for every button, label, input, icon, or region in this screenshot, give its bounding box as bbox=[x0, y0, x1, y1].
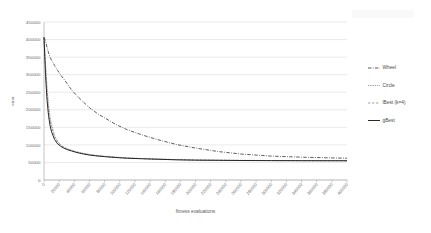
x-axis-tick-label: 300000 bbox=[260, 181, 273, 195]
x-axis-tick-label: 180000 bbox=[169, 181, 182, 195]
y-axis-tick-label: 350000 bbox=[26, 55, 41, 60]
x-axis-tick-label: 320000 bbox=[276, 181, 289, 195]
legend-label-0: Wheel bbox=[383, 65, 397, 70]
x-axis-tick-label: 360000 bbox=[306, 181, 319, 195]
line-chart: 0500001000001500002000002500003000003500… bbox=[0, 0, 431, 233]
x-axis-tick-label: 0 bbox=[41, 181, 47, 187]
x-axis-tick-label: 260000 bbox=[230, 181, 243, 195]
legend-label-1: Circle bbox=[383, 83, 396, 88]
legend-label-2: lBest (k=4) bbox=[383, 100, 406, 105]
y-axis-tick-label: 450000 bbox=[26, 20, 41, 25]
x-axis-tick-label: 40000 bbox=[65, 181, 77, 194]
y-axis-tick-label: 400000 bbox=[26, 37, 41, 42]
y-axis-tick-label: 250000 bbox=[26, 90, 41, 95]
x-axis-tick-label: 100000 bbox=[109, 181, 122, 195]
y-axis-title: error bbox=[10, 96, 15, 106]
y-axis-tick-label: 300000 bbox=[26, 72, 41, 77]
x-axis-tick-label: 240000 bbox=[215, 181, 228, 195]
y-axis-tick-label: 0 bbox=[38, 178, 41, 183]
x-axis-tick-label: 120000 bbox=[124, 181, 137, 195]
series-line-lbest-k-4 bbox=[44, 37, 347, 160]
y-axis-tick-label: 100000 bbox=[26, 143, 41, 148]
x-axis-tick-label: 20000 bbox=[50, 181, 62, 194]
x-axis-tick-label: 280000 bbox=[245, 181, 258, 195]
x-axis-tick-label: 220000 bbox=[200, 181, 213, 195]
x-axis-tick-label: 400000 bbox=[336, 181, 349, 195]
x-axis-tick-label: 340000 bbox=[291, 181, 304, 195]
series-line-circle bbox=[44, 37, 347, 160]
y-axis-tick-label: 200000 bbox=[26, 107, 41, 112]
y-axis-tick-label: 50000 bbox=[28, 160, 41, 165]
series-line-gbest bbox=[44, 37, 347, 160]
x-axis-tick-label: 380000 bbox=[321, 181, 334, 195]
x-axis-tick-label: 200000 bbox=[185, 181, 198, 195]
y-axis-tick-label: 150000 bbox=[26, 125, 41, 130]
x-axis-tick-label: 80000 bbox=[95, 181, 107, 194]
x-axis-tick-label: 60000 bbox=[80, 181, 92, 194]
legend-label-3: gBest bbox=[383, 118, 396, 123]
chart-container: 0500001000001500002000002500003000003500… bbox=[0, 0, 431, 233]
series-line-wheel bbox=[44, 37, 347, 158]
x-axis-tick-label: 140000 bbox=[139, 181, 152, 195]
x-axis-tick-label: 160000 bbox=[154, 181, 167, 195]
x-axis-title: fitness evaluations bbox=[176, 209, 216, 214]
